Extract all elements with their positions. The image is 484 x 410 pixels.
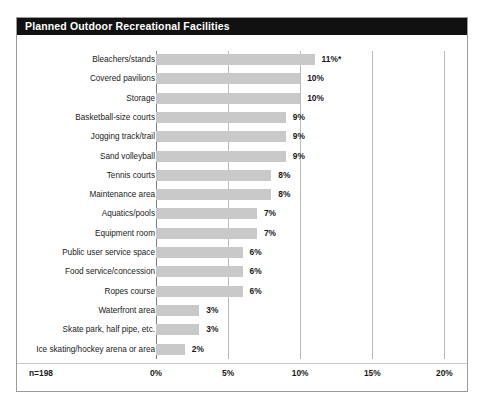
bar xyxy=(156,54,315,65)
bar-category-label: Storage xyxy=(0,94,155,103)
bar-value-label: 6% xyxy=(250,266,262,276)
bar-value-label: 2% xyxy=(192,344,204,354)
bar-row: Aquatics/pools7% xyxy=(17,205,467,224)
x-tick-label: 0% xyxy=(150,368,162,378)
x-tick-label: 5% xyxy=(222,368,234,378)
bar-value-label: 9% xyxy=(293,151,305,161)
bar-row: Waterfront area3% xyxy=(17,302,467,321)
bar xyxy=(156,286,243,297)
bar-row: Maintenance area8% xyxy=(17,186,467,205)
bar-value-label: 6% xyxy=(250,247,262,257)
bar xyxy=(156,324,199,335)
bar xyxy=(156,93,300,104)
bar-value-label: 11%* xyxy=(322,54,342,64)
bar xyxy=(156,208,257,219)
bar xyxy=(156,344,185,355)
x-tick-label: 10% xyxy=(292,368,309,378)
bar-value-label: 10% xyxy=(307,93,324,103)
x-tick-label: 15% xyxy=(364,368,381,378)
bar xyxy=(156,170,271,181)
bar-category-label: Food service/concession xyxy=(0,267,155,276)
bar-category-label: Equipment room xyxy=(0,229,155,238)
bar xyxy=(156,131,286,142)
bar-value-label: 8% xyxy=(278,189,290,199)
bar-category-label: Jogging track/trail xyxy=(0,132,155,141)
bar-value-label: 7% xyxy=(264,228,276,238)
bar-category-label: Waterfront area xyxy=(0,306,155,315)
bar-row: Public user service space6% xyxy=(17,244,467,263)
bar-value-label: 3% xyxy=(206,324,218,334)
bar-row: Sand volleyball9% xyxy=(17,148,467,167)
bar-category-label: Tennis courts xyxy=(0,171,155,180)
sample-size-label: n=198 xyxy=(29,368,53,378)
bar-value-label: 10% xyxy=(307,73,324,83)
bar-row: Equipment room7% xyxy=(17,225,467,244)
bar-row: Bleachers/stands11%* xyxy=(17,51,467,70)
bar-category-label: Public user service space xyxy=(0,248,155,257)
bar-row: Storage10% xyxy=(17,90,467,109)
bar-category-label: Basketball-size courts xyxy=(0,113,155,122)
bar xyxy=(156,73,300,84)
bar-value-label: 8% xyxy=(278,170,290,180)
bar-value-label: 9% xyxy=(293,131,305,141)
bar-category-label: Bleachers/stands xyxy=(0,55,155,64)
bar-row: Ropes course6% xyxy=(17,283,467,302)
bar-value-label: 9% xyxy=(293,112,305,122)
bar-row: Food service/concession6% xyxy=(17,263,467,282)
axis-bottom-rule xyxy=(17,363,467,364)
bar-category-label: Sand volleyball xyxy=(0,152,155,161)
bar-row: Jogging track/trail9% xyxy=(17,128,467,147)
bar xyxy=(156,228,257,239)
bar-category-label: Maintenance area xyxy=(0,190,155,199)
bar xyxy=(156,305,199,316)
bar-row: Skate park, half pipe, etc.3% xyxy=(17,321,467,340)
bar-row: Tennis courts8% xyxy=(17,167,467,186)
bar xyxy=(156,266,243,277)
page-title: Planned Outdoor Recreational Facilities xyxy=(25,20,230,32)
bar-category-label: Ropes course xyxy=(0,287,155,296)
x-tick-label: 20% xyxy=(436,368,453,378)
bar xyxy=(156,247,243,258)
bar-value-label: 6% xyxy=(250,286,262,296)
bar-row: Ice skating/hockey arena or area2% xyxy=(17,341,467,360)
bar-row: Covered pavilions10% xyxy=(17,70,467,89)
chart-plot-area: Bleachers/stands11%*Covered pavilions10%… xyxy=(17,35,467,392)
bar-category-label: Ice skating/hockey arena or area xyxy=(0,345,155,354)
bar xyxy=(156,112,286,123)
bar-row: Basketball-size courts9% xyxy=(17,109,467,128)
bar-category-label: Aquatics/pools xyxy=(0,209,155,218)
bar-category-label: Skate park, half pipe, etc. xyxy=(0,325,155,334)
chart-title-bar: Planned Outdoor Recreational Facilities xyxy=(17,18,467,35)
chart-card: Planned Outdoor Recreational Facilities … xyxy=(16,17,468,392)
bar-value-label: 3% xyxy=(206,305,218,315)
bar-category-label: Covered pavilions xyxy=(0,74,155,83)
bar xyxy=(156,189,271,200)
bar-value-label: 7% xyxy=(264,208,276,218)
bar xyxy=(156,151,286,162)
